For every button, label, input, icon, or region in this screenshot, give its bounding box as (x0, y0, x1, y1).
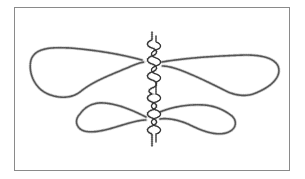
loop-lower-left (77, 103, 146, 132)
loop-upper-left (30, 48, 144, 97)
lampbrush-illustration (0, 0, 305, 179)
central-axis (148, 32, 161, 146)
loop-upper-right (162, 55, 279, 95)
loop-lower-right (160, 105, 235, 134)
